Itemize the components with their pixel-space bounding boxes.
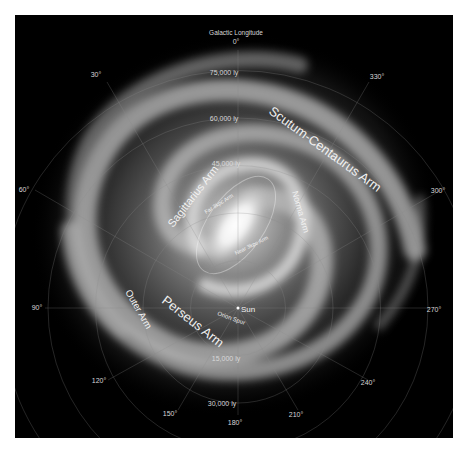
distance-label-30000: 30,000 ly	[208, 400, 237, 408]
galaxy-map-frame: Galactic Longitude 0° 30° 330° 60° 300° …	[15, 15, 453, 438]
sun-label: Sun	[241, 305, 255, 314]
galactic-longitude-title: Galactic Longitude	[209, 29, 263, 37]
longitude-label-180: 180°	[228, 419, 243, 426]
longitude-label-0: 0°	[233, 38, 240, 45]
sun-marker	[237, 307, 240, 310]
distance-label-45000: 45,000 ly	[212, 160, 241, 168]
longitude-label-90: 90°	[32, 304, 43, 311]
distance-label-15000: 15,000 ly	[212, 355, 241, 363]
longitude-label-60: 60°	[19, 186, 30, 193]
longitude-label-210: 210°	[289, 411, 304, 418]
longitude-label-270: 270°	[427, 306, 442, 313]
longitude-label-30: 30°	[91, 71, 102, 78]
longitude-label-240: 240°	[361, 379, 376, 386]
distance-label-60000: 60,000 ly	[210, 115, 239, 123]
longitude-label-330: 330°	[370, 73, 385, 80]
galaxy-map: Galactic Longitude 0° 30° 330° 60° 300° …	[15, 15, 453, 438]
longitude-label-150: 150°	[163, 410, 178, 417]
longitude-label-300: 300°	[431, 187, 446, 194]
distance-label-75000: 75,000 ly	[210, 69, 239, 77]
longitude-label-120: 120°	[92, 377, 107, 384]
